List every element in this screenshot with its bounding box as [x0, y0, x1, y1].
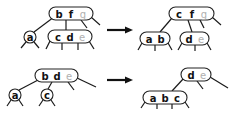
node-ab	[140, 32, 170, 45]
key-d: d	[185, 34, 192, 45]
b-tree-diagram: b f g a c d e c f g a b d e	[0, 0, 234, 127]
key-d: d	[53, 71, 60, 82]
edge-a-subtree	[34, 42, 39, 48]
panel-bottom-before: b d e a c	[7, 69, 96, 106]
edge-ab-subtree	[138, 43, 142, 50]
key-e: e	[200, 70, 206, 81]
edge-root-to-c	[48, 82, 52, 89]
key-a: a	[12, 90, 19, 101]
key-c: c	[55, 32, 61, 43]
arrowhead-icon	[125, 77, 133, 84]
key-e: e	[79, 32, 85, 43]
edge-root-subtree	[200, 20, 204, 28]
edge-root-subtree	[77, 78, 96, 87]
edge-root-to-de	[188, 20, 192, 32]
edge-root-to-ab	[160, 18, 172, 32]
edge-root-to-a	[34, 17, 54, 32]
key-b: b	[55, 9, 62, 20]
key-c: c	[44, 90, 50, 101]
edge-a-subtree	[19, 100, 23, 106]
edge-c-subtree	[39, 100, 43, 106]
edge-root-subtree	[210, 77, 228, 88]
key-e: e	[198, 34, 204, 45]
edge-ab-subtree	[168, 43, 172, 50]
key-b: b	[161, 93, 168, 104]
node-root-de	[181, 68, 211, 81]
key-e: e	[66, 71, 72, 82]
key-b: b	[41, 71, 48, 82]
edge-root-to-abc	[172, 78, 184, 91]
arrow-top	[107, 27, 133, 34]
key-d: d	[66, 32, 73, 43]
panel-bottom-after: d e a b c	[141, 68, 228, 109]
edge-cde-subtree	[89, 41, 94, 49]
node-de	[180, 32, 209, 45]
key-f: f	[69, 9, 74, 20]
panel-top-before: b f g a c d e	[21, 7, 100, 50]
key-f: f	[190, 9, 195, 20]
edge-root-subtree	[91, 17, 100, 25]
key-a: a	[150, 93, 157, 104]
edge-root-subtree	[197, 81, 203, 89]
key-a: a	[27, 32, 34, 43]
key-g: g	[80, 9, 86, 20]
edge-a-subtree	[21, 42, 26, 48]
key-c: c	[176, 9, 182, 20]
panel-top-after: c f g a b d e	[138, 7, 221, 51]
edge-de-subtree	[178, 43, 182, 50]
edge-de-subtree	[207, 43, 211, 50]
key-a: a	[146, 34, 153, 45]
arrowhead-icon	[125, 27, 133, 34]
edge-root-subtree	[212, 17, 221, 25]
key-d: d	[187, 70, 194, 81]
key-c: c	[174, 93, 180, 104]
key-g: g	[201, 9, 207, 20]
edge-a-subtree	[7, 100, 11, 106]
edge-abc-subtree	[141, 102, 145, 108]
key-b: b	[157, 34, 164, 45]
edge-cde-subtree	[46, 41, 50, 49]
edge-abc-subtree	[185, 102, 189, 108]
edge-root-subtree	[68, 82, 74, 90]
edge-c-subtree	[51, 100, 55, 106]
edge-root-subtree	[81, 20, 87, 28]
arrow-bottom	[107, 77, 133, 84]
